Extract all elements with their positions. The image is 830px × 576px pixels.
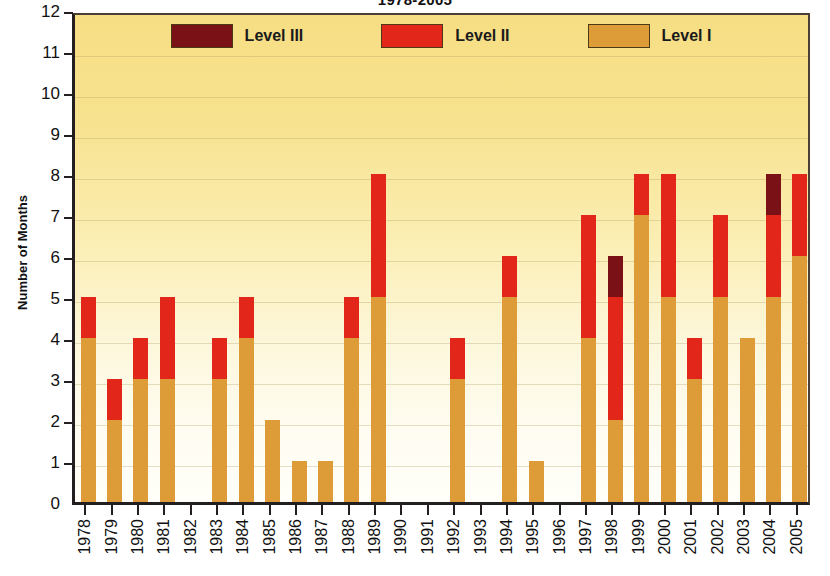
bar-segment-level-i — [740, 338, 755, 502]
bar-segment-level-i — [713, 297, 728, 502]
bar-2002[interactable] — [713, 215, 728, 502]
bar-2005[interactable] — [792, 174, 807, 502]
bar-2004[interactable] — [766, 174, 781, 502]
bar-1978[interactable] — [81, 297, 96, 502]
x-tick — [743, 505, 745, 515]
x-tick — [532, 505, 534, 515]
x-tick — [242, 505, 244, 515]
x-tick-label-1990: 1990 — [392, 519, 410, 555]
y-tick — [64, 135, 73, 137]
bar-1997[interactable] — [581, 215, 596, 502]
bar-1988[interactable] — [344, 297, 359, 502]
bar-2003[interactable] — [740, 338, 755, 502]
bar-segment-level-i — [81, 338, 96, 502]
bar-1992[interactable] — [450, 338, 465, 502]
x-tick-label-1984: 1984 — [234, 519, 252, 555]
bar-segment-level-ii — [107, 379, 122, 420]
bar-1987[interactable] — [318, 461, 333, 502]
y-tick-label: 3 — [4, 371, 60, 391]
y-tick — [64, 340, 73, 342]
x-tick-label-1987: 1987 — [313, 519, 331, 555]
gridline — [75, 302, 808, 303]
x-tick — [638, 505, 640, 515]
bar-1979[interactable] — [107, 379, 122, 502]
bar-1984[interactable] — [239, 297, 254, 502]
gridline — [75, 220, 808, 221]
bar-chart: 1978-2005 Number of Months 0123456789101… — [0, 0, 830, 576]
x-tick-label-1994: 1994 — [498, 519, 516, 555]
bar-segment-level-ii — [133, 338, 148, 379]
x-tick-label-1981: 1981 — [155, 519, 173, 555]
bar-1986[interactable] — [292, 461, 307, 502]
x-tick-label-2000: 2000 — [656, 519, 674, 555]
x-tick-label-1989: 1989 — [366, 519, 384, 555]
bar-segment-level-ii — [634, 174, 649, 215]
bar-1989[interactable] — [371, 174, 386, 502]
x-tick-label-1996: 1996 — [551, 519, 569, 555]
x-tick — [190, 505, 192, 515]
y-tick-label: 4 — [4, 330, 60, 350]
y-tick — [64, 422, 73, 424]
bar-1981[interactable] — [160, 297, 175, 502]
y-tick-label: 10 — [4, 84, 60, 104]
x-tick-label-1983: 1983 — [208, 519, 226, 555]
y-tick-label: 6 — [4, 248, 60, 268]
x-tick — [374, 505, 376, 515]
gridline — [75, 56, 808, 57]
x-tick — [506, 505, 508, 515]
bar-1980[interactable] — [133, 338, 148, 502]
x-tick-label-2005: 2005 — [788, 519, 806, 555]
y-tick-label: 5 — [4, 289, 60, 309]
gridline — [75, 179, 808, 180]
bar-2000[interactable] — [661, 174, 676, 502]
bar-segment-level-i — [687, 379, 702, 502]
bar-segment-level-ii — [713, 215, 728, 297]
bar-segment-level-i — [292, 461, 307, 502]
bar-1999[interactable] — [634, 174, 649, 502]
y-tick-label: 1 — [4, 453, 60, 473]
bar-segment-level-i — [502, 297, 517, 502]
bar-1985[interactable] — [265, 420, 280, 502]
y-tick — [64, 176, 73, 178]
x-tick-label-2002: 2002 — [709, 519, 727, 555]
x-tick-label-2003: 2003 — [735, 519, 753, 555]
bar-1994[interactable] — [502, 256, 517, 502]
x-tick-label-1999: 1999 — [630, 519, 648, 555]
x-tick — [664, 505, 666, 515]
x-tick — [321, 505, 323, 515]
bar-segment-level-ii — [344, 297, 359, 338]
x-tick — [216, 505, 218, 515]
x-tick-label-1995: 1995 — [524, 519, 542, 555]
bar-segment-level-ii — [581, 215, 596, 338]
y-tick — [64, 217, 73, 219]
bar-2001[interactable] — [687, 338, 702, 502]
bar-segment-level-i — [450, 379, 465, 502]
bar-1998[interactable] — [608, 256, 623, 502]
bar-segment-level-i — [581, 338, 596, 502]
y-tick — [64, 463, 73, 465]
bar-segment-level-ii — [239, 297, 254, 338]
y-tick-label: 8 — [4, 166, 60, 186]
bar-segment-level-i — [792, 256, 807, 502]
x-tick-label-2001: 2001 — [682, 519, 700, 555]
y-tick — [64, 94, 73, 96]
y-tick-label: 2 — [4, 412, 60, 432]
x-tick-label-2004: 2004 — [761, 519, 779, 555]
bar-1995[interactable] — [529, 461, 544, 502]
bar-segment-level-i — [344, 338, 359, 502]
bar-segment-level-i — [160, 379, 175, 502]
y-tick — [64, 258, 73, 260]
x-tick-label-1993: 1993 — [472, 519, 490, 555]
bar-segment-level-ii — [160, 297, 175, 379]
bar-1983[interactable] — [212, 338, 227, 502]
bar-segment-level-ii — [766, 215, 781, 297]
bar-segment-level-ii — [212, 338, 227, 379]
bar-segment-level-i — [661, 297, 676, 502]
y-tick — [64, 12, 73, 14]
x-tick — [427, 505, 429, 515]
x-tick — [84, 505, 86, 515]
bar-segment-level-ii — [81, 297, 96, 338]
bar-segment-level-i — [529, 461, 544, 502]
bar-segment-level-iii — [766, 174, 781, 215]
x-tick — [269, 505, 271, 515]
